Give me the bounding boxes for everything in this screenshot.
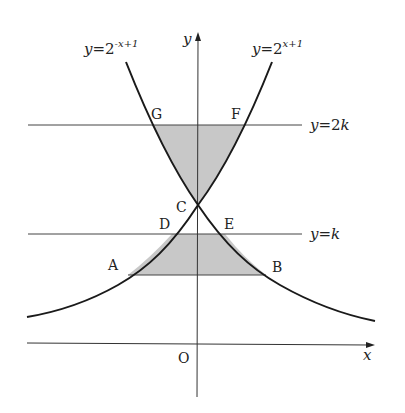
exponential-graph-diagram: y=2-x+1 y=2x+1 y=2k y=k y x O G F C D E …: [0, 0, 405, 413]
point-F-label: F: [231, 106, 241, 122]
origin-label: O: [178, 350, 189, 366]
x-axis-label: x: [363, 346, 372, 364]
x-axis: [27, 343, 370, 345]
point-D-label: D: [159, 216, 170, 232]
curve-2-x-plus-1: [27, 62, 272, 317]
y-axis-arrow-icon: [195, 32, 201, 41]
y-axis: [197, 38, 198, 397]
point-E-label: E: [224, 216, 234, 232]
point-C-label: C: [176, 199, 187, 215]
label-line-y-2k: y=2k: [309, 116, 350, 134]
curve-2-neg-x-plus-1: [126, 62, 375, 321]
y-axis-label: y: [182, 30, 192, 48]
label-line-y-k: y=k: [309, 225, 340, 243]
point-G-label: G: [151, 106, 162, 122]
label-right-curve: y=2x+1: [251, 38, 303, 58]
shaded-region-upper: [152, 125, 245, 205]
label-left-curve: y=2-x+1: [83, 38, 138, 58]
point-B-label: B: [272, 259, 282, 275]
point-A-label: A: [107, 257, 119, 273]
